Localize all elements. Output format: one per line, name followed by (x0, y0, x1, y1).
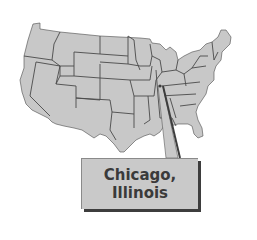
chicago-marker (159, 85, 162, 88)
us-outline (20, 23, 231, 152)
callout-city: Chicago, (104, 166, 177, 184)
callout-state: Illinois (112, 184, 168, 202)
location-callout: Chicago, Illinois (81, 158, 198, 209)
